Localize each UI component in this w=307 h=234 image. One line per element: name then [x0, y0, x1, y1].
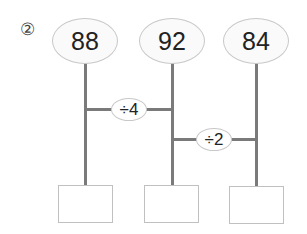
- problem-number: ②: [17, 20, 37, 40]
- operation-divide-4: ÷4: [111, 98, 147, 121]
- operation-divide-2: ÷2: [196, 128, 232, 151]
- number-ellipse-2: 92: [139, 18, 205, 64]
- number-ellipse-3: 84: [223, 18, 289, 64]
- number-ellipse-1: 88: [52, 18, 118, 64]
- vertical-line-3: [255, 62, 258, 186]
- answer-box-2[interactable]: [144, 185, 199, 223]
- vertical-line-1: [84, 62, 87, 186]
- vertical-line-2: [171, 62, 174, 186]
- answer-box-1[interactable]: [58, 185, 113, 223]
- answer-box-3[interactable]: [229, 186, 284, 224]
